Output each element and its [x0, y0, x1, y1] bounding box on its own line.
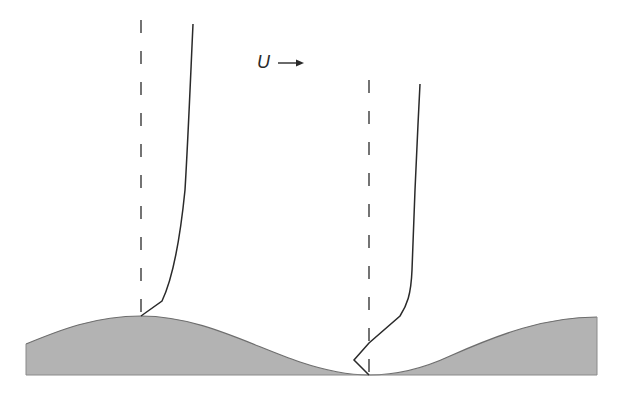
trough-velocity-profile: [354, 84, 420, 375]
wavy-surface-flow-diagram: [0, 0, 629, 394]
crest-velocity-profile: [141, 24, 193, 316]
flow-velocity-label: U: [257, 52, 270, 72]
right-arrow-icon: [296, 60, 304, 67]
